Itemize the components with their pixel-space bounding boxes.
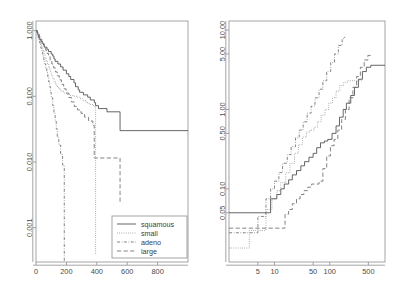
legend-label-squamous: squamous bbox=[141, 220, 175, 229]
plot-frame bbox=[229, 21, 385, 262]
x-tick-label: 500 bbox=[362, 267, 374, 276]
right-panel-plot: 5105010050010.005.001.000.500.100.05 bbox=[200, 0, 400, 303]
x-tick-label: 200 bbox=[60, 267, 72, 276]
figure-container: 02004006008001.0000.1000.0100.001squamou… bbox=[0, 0, 400, 303]
x-tick-label: 800 bbox=[151, 267, 163, 276]
x-tick-label: 10 bbox=[270, 267, 278, 276]
series-line-adeno bbox=[36, 31, 64, 262]
legend-label-adeno: adeno bbox=[141, 238, 161, 247]
x-tick-label: 400 bbox=[91, 267, 103, 276]
x-tick-label: 5 bbox=[256, 267, 260, 276]
legend-label-small: small bbox=[141, 229, 158, 238]
series-line-squamous bbox=[36, 31, 188, 131]
series-line-small bbox=[229, 81, 363, 248]
left-panel: 02004006008001.0000.1000.0100.001squamou… bbox=[0, 0, 200, 303]
legend-label-large: large bbox=[141, 247, 157, 256]
series-line-large bbox=[229, 54, 371, 228]
series-line-adeno bbox=[229, 37, 345, 233]
x-tick-label: 100 bbox=[324, 267, 336, 276]
right-panel: 5105010050010.005.001.000.500.100.05 bbox=[200, 0, 400, 303]
x-tick-label: 600 bbox=[121, 267, 133, 276]
series-line-large bbox=[36, 31, 120, 204]
left-panel-plot: 02004006008001.0000.1000.0100.001squamou… bbox=[0, 0, 200, 303]
x-tick-label: 0 bbox=[34, 267, 38, 276]
x-tick-label: 50 bbox=[309, 267, 317, 276]
